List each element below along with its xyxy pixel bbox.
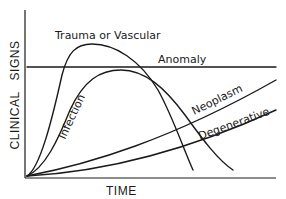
neoplasm-label: Neoplasm	[190, 82, 245, 118]
x-axis-label: TIME	[106, 184, 137, 198]
y-axis-label: CLINICAL SIGNS	[8, 41, 22, 150]
infection-curve	[27, 70, 233, 176]
anomaly-label: Anomaly	[158, 53, 207, 66]
infection-label: Infection	[56, 92, 88, 141]
trauma-vascular-label: Trauma or Vascular	[54, 29, 161, 42]
clinical-signs-over-time-diagram: Trauma or Vascular Anomaly Infection Neo…	[0, 0, 286, 199]
